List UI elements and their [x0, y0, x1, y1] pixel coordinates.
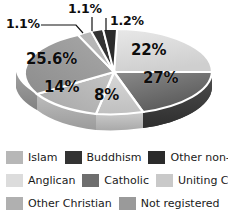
legend-swatch-not-registered — [119, 197, 136, 210]
pie-label-anglican: 22% — [131, 41, 166, 59]
legend-label-buddhism: Buddhism — [87, 151, 142, 164]
legend-row: Islam Buddhism Other non-Christian — [6, 147, 228, 167]
pie-label-buddhism: 1.1% — [68, 1, 102, 16]
legend-row: Anglican Catholic Uniting Church — [6, 170, 228, 190]
pie-label-other-christian: 14% — [44, 78, 79, 96]
pie-label-catholic: 27% — [143, 69, 178, 87]
legend-label-anglican: Anglican — [28, 174, 75, 187]
legend-swatch-catholic — [82, 174, 99, 187]
chart-legend: Islam Buddhism Other non-Christian Angli… — [0, 147, 228, 215]
legend-swatch-buddhism — [65, 151, 82, 164]
legend-label-other-non-christian: Other non-Christian — [170, 151, 228, 164]
legend-item-uniting-church[interactable]: Uniting Church — [156, 174, 228, 187]
legend-swatch-uniting-church — [156, 174, 173, 187]
legend-label-catholic: Catholic — [104, 174, 149, 187]
legend-item-catholic[interactable]: Catholic — [82, 174, 149, 187]
legend-label-uniting-church: Uniting Church — [178, 174, 228, 187]
pie-label-islam: 1.1% — [6, 16, 40, 31]
pie-chart-plot: 1.1% 1.1% 1.2% 22% 27% 8% 14% 25.6% — [0, 0, 228, 150]
legend-label-other-christian: Other Christian — [28, 197, 112, 210]
legend-swatch-other-non-christian — [148, 151, 165, 164]
legend-item-islam[interactable]: Islam — [6, 151, 58, 164]
legend-swatch-anglican — [6, 174, 23, 187]
legend-item-not-registered[interactable]: Not registered — [119, 197, 220, 210]
legend-item-buddhism[interactable]: Buddhism — [65, 151, 142, 164]
legend-item-other-non-christian[interactable]: Other non-Christian — [148, 151, 228, 164]
legend-item-anglican[interactable]: Anglican — [6, 174, 75, 187]
legend-swatch-islam — [6, 151, 23, 164]
legend-label-not-registered: Not registered — [141, 197, 220, 210]
pie-label-uniting-church: 8% — [94, 86, 119, 104]
legend-item-other-christian[interactable]: Other Christian — [6, 197, 112, 210]
pie-label-not-registered: 25.6% — [26, 50, 77, 68]
legend-row: Other Christian Not registered — [6, 193, 228, 213]
leader-line-islam — [41, 25, 83, 33]
pie-chart-figure: 1.1% 1.1% 1.2% 22% 27% 8% 14% 25.6% Isla… — [0, 0, 228, 215]
legend-label-islam: Islam — [28, 151, 58, 164]
pie-label-other-non-christian: 1.2% — [110, 13, 144, 28]
legend-swatch-other-christian — [6, 197, 23, 210]
